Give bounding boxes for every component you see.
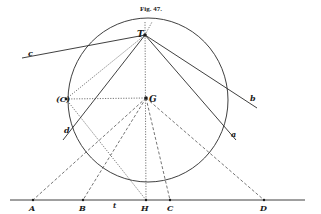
label-H: H — [140, 203, 149, 213]
label-line-b: b — [250, 93, 256, 103]
label-B: B — [78, 203, 86, 213]
figure-47-diagram: Fig. 47. T G (C) A B H C D c b d a t — [0, 0, 321, 214]
label-line-a: a — [231, 129, 236, 139]
line-T-extension — [145, 22, 152, 35]
line-C-H — [66, 99, 146, 200]
label-C: C — [167, 203, 174, 213]
point-T — [143, 33, 147, 37]
line-G-A — [33, 98, 146, 200]
label-line-d: d — [64, 125, 70, 135]
point-A — [32, 199, 34, 201]
label-G: G — [149, 94, 157, 104]
label-C-paren: (C) — [56, 94, 70, 104]
point-H — [145, 199, 147, 201]
point-G — [144, 96, 148, 100]
line-b — [145, 35, 257, 108]
line-C-T — [66, 35, 145, 99]
point-D — [263, 199, 265, 201]
label-D: D — [259, 203, 267, 213]
figure-title: Fig. 47. — [140, 5, 162, 13]
line-c — [22, 35, 145, 58]
label-line-t: t — [113, 201, 117, 210]
label-A: A — [28, 203, 35, 213]
line-G-C — [146, 98, 170, 200]
line-a — [145, 35, 236, 140]
point-C — [169, 199, 171, 201]
line-G-B — [83, 98, 146, 200]
label-line-c: c — [28, 48, 33, 58]
point-B — [82, 199, 84, 201]
line-d — [63, 35, 145, 140]
line-G-D — [146, 98, 264, 200]
line-C-G — [66, 98, 146, 99]
vertical-axis-TH — [145, 22, 146, 200]
